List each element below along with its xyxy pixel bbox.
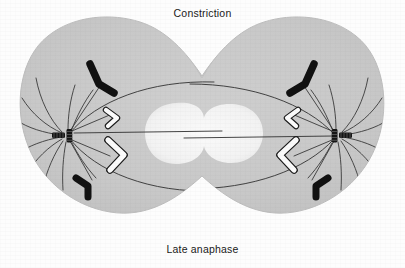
centriole-right-vertical [332,129,338,143]
centriole-left-horizontal [52,133,65,139]
constriction-label: Constriction [0,7,405,19]
centriole-left-vertical [67,129,73,143]
centriole-right-horizontal [339,133,352,139]
stage-label: Late anaphase [0,243,405,255]
late-anaphase-diagram [0,0,405,268]
figure-canvas: Constriction [0,0,405,268]
